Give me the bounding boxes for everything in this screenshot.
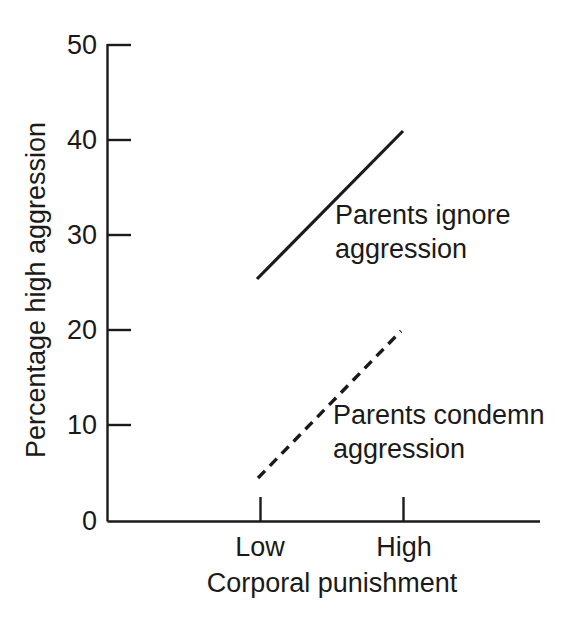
y-tick-label-50: 50: [67, 30, 97, 60]
y-tick-label-40: 40: [67, 125, 97, 155]
y-axis-title: Percentage high aggression: [21, 122, 51, 458]
x-tick-label-high: High: [376, 532, 432, 562]
line-chart-figure: 50 40 30 20 10 0 Low High Corporal punis…: [0, 0, 563, 622]
chart-page: 50 40 30 20 10 0 Low High Corporal punis…: [0, 0, 563, 622]
y-tick-label-30: 30: [67, 220, 97, 250]
annotation-parents-ignore-line1: Parents ignore: [335, 200, 511, 230]
x-tick-label-low: Low: [235, 532, 285, 562]
annotation-parents-ignore-line2: aggression: [335, 234, 467, 264]
annotation-parents-condemn-line1: Parents condemn: [333, 400, 545, 430]
annotation-parents-condemn-line2: aggression: [333, 434, 465, 464]
y-tick-label-10: 10: [67, 410, 97, 440]
x-axis-title: Corporal punishment: [207, 568, 458, 598]
y-tick-label-0: 0: [82, 506, 97, 536]
y-tick-label-20: 20: [67, 315, 97, 345]
